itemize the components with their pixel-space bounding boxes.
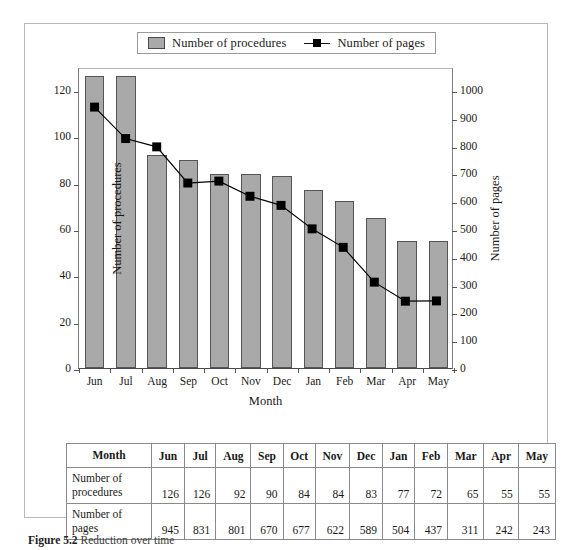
x-axis-title: Month — [249, 394, 282, 409]
tick-mark — [74, 138, 79, 139]
tick-mark — [74, 277, 79, 278]
tick-mark — [452, 314, 457, 315]
tick-label: 700 — [460, 167, 477, 179]
x-axis-label-mar: Mar — [366, 375, 385, 387]
tick-mark — [142, 368, 143, 373]
tick-label: 1000 — [460, 84, 483, 96]
table-cell-jul: 831 — [184, 503, 215, 539]
table-cell-jan: 77 — [382, 468, 414, 504]
bar-swatch-icon — [148, 37, 165, 49]
line-marker-jul — [121, 134, 130, 143]
tick-mark — [74, 231, 79, 232]
legend-item-procedures: Number of procedures — [148, 36, 286, 51]
table-cell-may: 55 — [518, 468, 555, 504]
table-cell-nov: 622 — [315, 503, 349, 539]
tick-mark — [235, 368, 236, 373]
line-path-pages — [95, 107, 437, 301]
table-cell-jan: 504 — [382, 503, 414, 539]
tick-label: 100 — [54, 130, 71, 142]
tick-label: 60 — [60, 223, 72, 235]
table-header-apr: Apr — [484, 444, 518, 468]
x-axis-label-feb: Feb — [336, 375, 353, 387]
line-marker-sep — [183, 179, 192, 188]
table-cell-may: 243 — [518, 503, 555, 539]
x-axis-label-jul: Jul — [119, 375, 132, 387]
tick-mark — [74, 92, 79, 93]
tick-label: 200 — [460, 306, 477, 318]
tick-label: 120 — [54, 84, 71, 96]
table-header-aug: Aug — [216, 444, 251, 468]
tick-label: 800 — [460, 140, 477, 152]
table-cell-feb: 72 — [415, 468, 448, 504]
figure-container: Number of procedures Number of pages 020… — [24, 23, 548, 518]
table-cell-feb: 437 — [415, 503, 448, 539]
table-cell-mar: 65 — [448, 468, 484, 504]
tick-label: 0 — [65, 362, 71, 374]
table-cell-aug: 92 — [216, 468, 251, 504]
line-series-pages — [79, 69, 452, 368]
line-marker-apr — [401, 297, 410, 306]
line-marker-jun — [90, 103, 99, 112]
chart-legend: Number of procedures Number of pages — [137, 32, 436, 54]
tick-mark — [454, 368, 455, 373]
tick-mark — [110, 368, 111, 373]
legend-label-pages: Number of pages — [337, 36, 425, 51]
table-cell-dec: 83 — [350, 468, 383, 504]
tick-mark — [74, 185, 79, 186]
tick-mark — [452, 203, 457, 204]
tick-mark — [452, 342, 457, 343]
table-header-row: MonthJunJulAugSepOctNovDecJanFebMarAprMa… — [67, 444, 556, 468]
line-square-marker-icon — [304, 38, 330, 48]
line-marker-mar — [370, 278, 379, 287]
x-axis-label-dec: Dec — [273, 375, 292, 387]
table-row: Number of procedures12612692908484837772… — [67, 468, 556, 504]
table-header-dec: Dec — [350, 444, 383, 468]
x-axis-label-apr: Apr — [398, 375, 416, 387]
table-header-oct: Oct — [283, 444, 315, 468]
table-header-jan: Jan — [382, 444, 414, 468]
x-axis-label-nov: Nov — [241, 375, 261, 387]
figure-caption: Figure 5.2 Reduction over time — [28, 534, 174, 546]
x-axis-label-may: May — [428, 375, 449, 387]
legend-item-pages: Number of pages — [304, 36, 425, 51]
line-marker-oct — [214, 177, 223, 186]
chart-area: Number of procedures Number of pages 020… — [25, 24, 549, 404]
tick-label: 900 — [460, 112, 477, 124]
tick-mark — [360, 368, 361, 373]
x-axis-label-sep: Sep — [180, 375, 197, 387]
line-marker-nov — [245, 192, 254, 201]
table-cell-dec: 589 — [350, 503, 383, 539]
table-header-sep: Sep — [251, 444, 283, 468]
table-cell-oct: 84 — [283, 468, 315, 504]
tick-label: 300 — [460, 279, 477, 291]
plot-area: 020406080100120 010020030040050060070080… — [78, 68, 453, 369]
tick-mark — [173, 368, 174, 373]
table-cell-apr: 55 — [484, 468, 518, 504]
figure-caption-text: Reduction over time — [81, 534, 175, 546]
tick-mark — [423, 368, 424, 373]
legend-label-procedures: Number of procedures — [172, 36, 286, 51]
y-axis-right-title: Number of pages — [487, 175, 502, 261]
tick-label: 500 — [460, 223, 477, 235]
table-header-mar: Mar — [448, 444, 484, 468]
tick-label: 40 — [60, 269, 72, 281]
tick-mark — [329, 368, 330, 373]
tick-mark — [452, 287, 457, 288]
tick-mark — [452, 231, 457, 232]
table-cell-sep: 90 — [251, 468, 283, 504]
tick-mark — [452, 175, 457, 176]
table-body: Number of procedures12612692908484837772… — [67, 468, 556, 540]
table-cell-jul: 126 — [184, 468, 215, 504]
y-axis-left-title: Number of procedures — [110, 162, 125, 274]
table-header-jun: Jun — [152, 444, 185, 468]
x-axis-label-aug: Aug — [147, 375, 167, 387]
table-header-may: May — [518, 444, 555, 468]
tick-mark — [298, 368, 299, 373]
table-cell-apr: 242 — [484, 503, 518, 539]
line-marker-dec — [277, 201, 286, 210]
table-cell-nov: 84 — [315, 468, 349, 504]
tick-mark — [74, 324, 79, 325]
table-cell-oct: 677 — [283, 503, 315, 539]
table-cell-jun: 126 — [152, 468, 185, 504]
table-header-nov: Nov — [315, 444, 349, 468]
